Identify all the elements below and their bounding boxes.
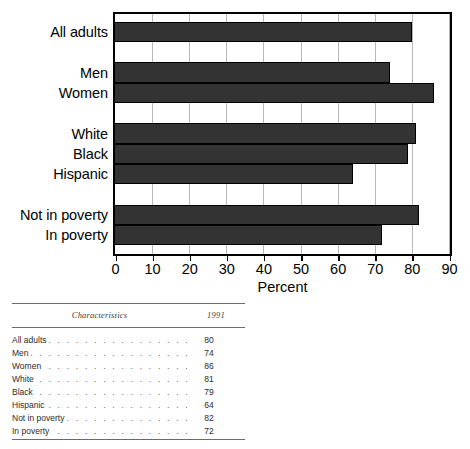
plot-area	[115, 14, 450, 254]
table-row-label: Not in poverty	[12, 412, 65, 425]
x-tick-label: 80	[395, 262, 429, 277]
gridline	[449, 14, 450, 254]
y-tick-label: Hispanic	[0, 167, 108, 182]
x-axis-title: Percent	[113, 279, 452, 295]
table-row: . . . . . . . . . . . . . . . . . . . . …	[12, 399, 245, 412]
table-row-label: White	[12, 373, 35, 386]
bar	[115, 164, 353, 184]
bar	[115, 62, 390, 82]
table-row-value: 74	[187, 347, 231, 360]
x-tick-label: 0	[99, 262, 133, 277]
table-rule-top	[12, 303, 245, 304]
y-axis-category-labels: All adultsMenWomenWhiteBlackHispanicNot …	[0, 12, 108, 256]
table-row: . . . . . . . . . . . . . . . . . . . . …	[12, 334, 245, 347]
x-tick-label: 90	[433, 262, 467, 277]
x-tick-label: 70	[358, 262, 392, 277]
table-row: . . . . . . . . . . . . . . . . . . . . …	[12, 386, 245, 399]
table-rule-middle	[12, 327, 245, 328]
y-tick-label: All adults	[0, 25, 108, 40]
y-tick-label: Women	[0, 86, 108, 101]
table-row-value: 82	[187, 412, 231, 425]
bar	[115, 123, 416, 143]
table-row: . . . . . . . . . . . . . . . . . . . . …	[12, 373, 245, 386]
table-row-value: 81	[187, 373, 231, 386]
y-tick-label: Not in poverty	[0, 208, 108, 223]
table-row-label: All adults	[12, 334, 48, 347]
table-row-value: 80	[187, 334, 231, 347]
y-tick-label: Men	[0, 66, 108, 81]
table-row-value: 86	[187, 360, 231, 373]
bar	[115, 22, 412, 42]
y-tick-label: White	[0, 127, 108, 142]
table-header-year: 1991	[187, 310, 245, 320]
plot-frame	[113, 12, 452, 256]
table-rule-bottom	[12, 439, 245, 440]
table-row-value: 72	[187, 425, 231, 438]
x-tick-label: 30	[210, 262, 244, 277]
table-row: . . . . . . . . . . . . . . . . . . . . …	[12, 360, 245, 373]
x-tick-label: 40	[247, 262, 281, 277]
bar	[115, 83, 434, 103]
bar	[115, 144, 408, 164]
table-row: . . . . . . . . . . . . . . . . . . . . …	[12, 425, 245, 438]
bar-chart-figure: All adultsMenWomenWhiteBlackHispanicNot …	[0, 0, 470, 300]
table-leader-dots: . . . . . . . . . . . . . . . . . . . . …	[12, 386, 187, 399]
table-header-characteristics: Characteristics	[12, 310, 187, 320]
table-row-value: 64	[187, 399, 231, 412]
table-row-label: Black	[12, 386, 34, 399]
data-table: Characteristics 1991 . . . . . . . . . .…	[12, 303, 245, 443]
x-tick-label: 10	[136, 262, 170, 277]
table-row-value: 79	[187, 386, 231, 399]
table-row-label: In poverty	[12, 425, 50, 438]
y-tick-label: In poverty	[0, 228, 108, 243]
y-tick-label: Black	[0, 147, 108, 162]
x-tick-label: 50	[284, 262, 318, 277]
table-leader-dots: . . . . . . . . . . . . . . . . . . . . …	[12, 373, 187, 386]
bar	[115, 225, 382, 245]
table-row: . . . . . . . . . . . . . . . . . . . . …	[12, 412, 245, 425]
table-leader-dots: . . . . . . . . . . . . . . . . . . . . …	[12, 347, 187, 360]
x-tick-label: 60	[321, 262, 355, 277]
x-tick-label: 20	[173, 262, 207, 277]
bar	[115, 205, 419, 225]
table-row-label: Hispanic	[12, 399, 46, 412]
table-row-label: Women	[12, 360, 42, 373]
table-row-label: Men	[12, 347, 30, 360]
table-row: . . . . . . . . . . . . . . . . . . . . …	[12, 347, 245, 360]
